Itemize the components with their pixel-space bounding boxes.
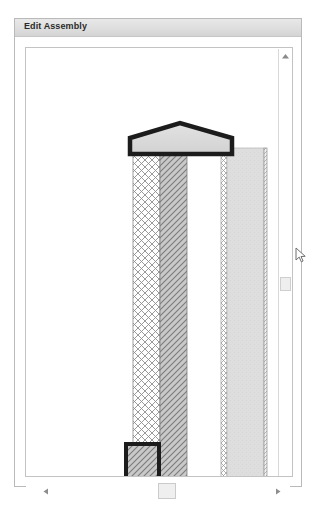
- assembly-section-drawing: [26, 48, 292, 476]
- layer-crosshatch-inner: [221, 148, 227, 476]
- layer-edge-line: [264, 148, 267, 476]
- layer-diagonal-hatch-core: [160, 153, 187, 476]
- bottom-base-element: [124, 442, 161, 476]
- layer-solid-board: [227, 148, 264, 476]
- scroll-up-arrow-button[interactable]: [280, 51, 291, 62]
- triangle-up-icon: [280, 51, 291, 62]
- horizontal-scrollbar[interactable]: [26, 479, 290, 503]
- triangle-right-icon: [274, 487, 283, 496]
- layer-crosshatch-outer: [133, 153, 160, 476]
- assembly-drawing-area[interactable]: [26, 48, 292, 476]
- vertical-scroll-thumb[interactable]: [280, 277, 291, 291]
- scroll-left-arrow-button[interactable]: [41, 487, 50, 496]
- assembly-canvas-frame[interactable]: [25, 47, 293, 477]
- vertical-scrollbar[interactable]: [278, 49, 291, 477]
- triangle-left-icon: [41, 487, 50, 496]
- page-title: Edit Assembly: [24, 21, 87, 31]
- horizontal-scroll-thumb[interactable]: [158, 483, 176, 499]
- left-layer-group: [133, 153, 187, 476]
- dialog-title-bar: Edit Assembly: [15, 19, 301, 37]
- top-cap-element: [130, 123, 232, 154]
- scroll-right-arrow-button[interactable]: [274, 487, 283, 496]
- edit-assembly-dialog: Edit Assembly: [14, 18, 302, 487]
- right-layer-group: [221, 148, 267, 476]
